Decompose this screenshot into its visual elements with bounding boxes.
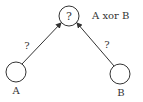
xor-network-diagram: ? A xor B A B ? ? — [0, 0, 143, 102]
input-node-b — [110, 64, 130, 84]
output-label: A xor B — [91, 10, 129, 21]
weight-label-a: ? — [24, 40, 29, 51]
input-node-a — [6, 62, 26, 82]
input-b-label: B — [117, 87, 124, 98]
weight-label-b: ? — [104, 39, 109, 50]
output-node-symbol: ? — [66, 10, 72, 23]
input-a-label: A — [11, 85, 20, 96]
